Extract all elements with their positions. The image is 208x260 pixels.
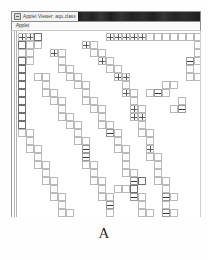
dotplot-cell: [146, 129, 154, 137]
dotplot-cell: [58, 209, 66, 217]
dotplot-cell: [58, 113, 66, 121]
dotplot-cell: [122, 73, 130, 81]
dotplot-cell: [90, 41, 98, 49]
dotplot-cell: [178, 97, 186, 105]
dotplot-cell: [154, 161, 162, 169]
dotplot-cell: [130, 97, 138, 105]
dotplot-cell: [90, 161, 98, 169]
dotplot-cell: [122, 169, 130, 177]
dotplot-cell: [162, 81, 170, 89]
dotplot-cell: [18, 57, 26, 65]
dotplot-cell: [138, 33, 146, 41]
dotplot-cell: [130, 177, 138, 185]
dotplot-cell: [146, 145, 154, 153]
dotplot-cell: [74, 137, 82, 145]
window-titlebar[interactable]: Applet Viewer: aqu.class: [11, 11, 201, 22]
dotplot-cell: [34, 33, 42, 41]
dotplot-cell: [18, 89, 26, 97]
dotplot-cell: [130, 169, 138, 177]
dotplot-cell: [130, 33, 138, 41]
titlebar-highlight-band: [78, 12, 200, 21]
dotplot-cell: [98, 49, 106, 57]
dotplot-cell: [194, 57, 201, 65]
dotplot-cell: [82, 97, 90, 105]
dotplot-cell: [26, 33, 34, 41]
figure-panel: Applet Viewer: aqu.class Applet A: [0, 0, 208, 260]
dotplot-cell: [58, 49, 66, 57]
figure-caption: A: [0, 224, 208, 242]
dotplot-cell: [162, 201, 170, 209]
dotplot-cell: [34, 73, 42, 81]
dotplot-cell: [66, 121, 74, 129]
dotplot-cell: [154, 89, 162, 97]
dotplot-cell: [18, 49, 26, 57]
dotplot-cell: [170, 33, 178, 41]
dotplot-cell: [98, 185, 106, 193]
dotplot-cell: [162, 193, 170, 201]
dotplot-cell: [130, 105, 138, 113]
dotplot-cell: [154, 33, 162, 41]
dotplot-cell: [82, 41, 90, 49]
dotplot-cell: [162, 209, 170, 217]
dotplot-cell: [18, 41, 26, 49]
dotplot-cell: [170, 193, 178, 201]
dotplot-cell: [98, 193, 106, 201]
dotplot-cell: [194, 49, 201, 57]
dotplot-cell: [58, 97, 66, 105]
dotplot-cell: [18, 129, 26, 137]
dotplot-cell: [58, 65, 66, 73]
dotplot-cell: [170, 81, 178, 89]
dotplot-cell: [98, 121, 106, 129]
dotplot-cell: [146, 153, 154, 161]
menu-item-applet[interactable]: Applet: [15, 23, 30, 29]
dotplot-cell: [66, 65, 74, 73]
dotplot-cell: [58, 57, 66, 65]
dotplot-cell: [18, 33, 26, 41]
dotplot-cell: [138, 193, 146, 201]
menu-bar[interactable]: Applet: [11, 22, 201, 31]
dotplot-cell: [186, 65, 194, 73]
dotplot-cell: [122, 33, 130, 41]
dotplot-cell: [50, 193, 58, 201]
dotplot-cell: [18, 65, 26, 73]
dotplot-cell: [90, 49, 98, 57]
dotplot-cell: [42, 89, 50, 97]
dotplot-canvas[interactable]: [11, 31, 201, 217]
dotplot-cell: [34, 153, 42, 161]
dotplot-cell: [178, 105, 186, 113]
dotplot-cell: [18, 81, 26, 89]
dotplot-cell: [34, 145, 42, 153]
dotplot-cell: [122, 185, 130, 193]
dotplot-cell: [130, 89, 138, 97]
canvas-left-rule-inner: [16, 31, 17, 217]
dotplot-cell: [138, 113, 146, 121]
dotplot-cell: [42, 81, 50, 89]
dotplot-cell: [74, 73, 82, 81]
dotplot-cell: [162, 33, 170, 41]
dotplot-cell: [50, 89, 58, 97]
dotplot-cell: [122, 89, 130, 97]
dotplot-cell: [170, 105, 178, 113]
dotplot-cell: [154, 169, 162, 177]
window-title: Applet Viewer: aqu.class: [23, 14, 76, 20]
dotplot-cell: [82, 81, 90, 89]
dotplot-cell: [90, 177, 98, 185]
dotplot-cell: [42, 161, 50, 169]
dotplot-cell: [50, 97, 58, 105]
dotplot-cell: [114, 65, 122, 73]
dotplot-cell: [26, 41, 34, 49]
dotplot-cell: [58, 105, 66, 113]
dotplot-cell: [34, 161, 42, 169]
dotplot-cell: [50, 49, 58, 57]
dotplot-cell: [18, 113, 26, 121]
dotplot-cell: [98, 113, 106, 121]
dotplot-cell: [90, 169, 98, 177]
dotplot-cell: [82, 89, 90, 97]
dotplot-cell: [26, 137, 34, 145]
dotplot-cell: [74, 129, 82, 137]
dotplot-cell: [26, 57, 34, 65]
dotplot-cell: [194, 41, 201, 49]
dotplot-cell: [74, 81, 82, 89]
dotplot-cell: [90, 105, 98, 113]
dotplot-cell: [106, 209, 114, 217]
